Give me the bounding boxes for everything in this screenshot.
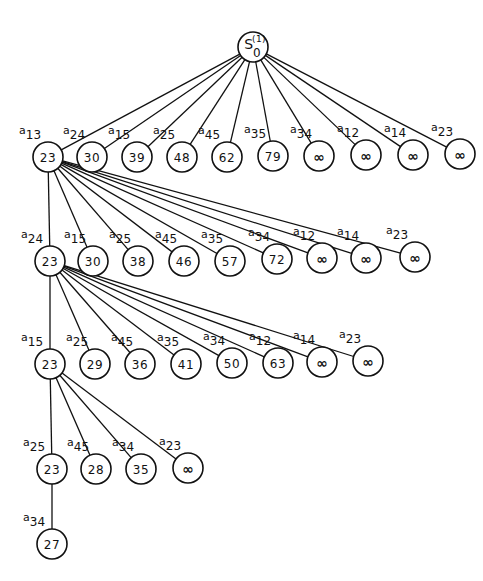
- tree-node: ∞: [398, 140, 428, 170]
- tree-node: 38: [123, 246, 153, 276]
- infinity-value: ∞: [316, 355, 328, 371]
- edge-label: a12: [249, 330, 271, 348]
- node-value: 23: [42, 358, 58, 372]
- tree-edge: [61, 162, 308, 253]
- node-value: 57: [222, 255, 238, 269]
- root-node: S (1) 0: [238, 32, 268, 62]
- tree-node: ∞: [445, 139, 475, 169]
- edge-label: a45: [155, 228, 177, 246]
- node-value: 50: [224, 357, 240, 371]
- tree-node: 29: [80, 349, 110, 379]
- infinity-value: ∞: [407, 148, 419, 164]
- tree-node: ∞: [351, 140, 381, 170]
- node-value: 48: [174, 151, 190, 165]
- tree-node: ∞: [173, 453, 203, 483]
- edge-label: a45: [67, 436, 89, 454]
- node-value: 39: [129, 151, 145, 165]
- tree-node: 46: [169, 246, 199, 276]
- tree-node: 23: [33, 142, 63, 172]
- edge-label: a25: [109, 228, 131, 246]
- edge-label: a34: [23, 511, 45, 529]
- nodes-layer: S (1) 0 233039486279∞∞∞∞233038465772∞∞∞2…: [33, 32, 475, 559]
- node-value: 63: [270, 357, 286, 371]
- tree-node: 63: [263, 348, 293, 378]
- tree-node: ∞: [304, 141, 334, 171]
- node-value: 62: [219, 151, 235, 165]
- node-value: 41: [178, 358, 194, 372]
- tree-node: 23: [35, 246, 65, 276]
- edge-label: a15: [64, 228, 86, 246]
- node-value: 30: [85, 255, 101, 269]
- tree-node: 72: [262, 244, 292, 274]
- infinity-value: ∞: [362, 354, 374, 370]
- tree-node: 79: [258, 141, 288, 171]
- tree-node: 41: [171, 349, 201, 379]
- node-value: 28: [88, 463, 104, 477]
- node-value: 23: [42, 255, 58, 269]
- tree-edge: [50, 378, 51, 454]
- edge-label: a13: [19, 124, 41, 142]
- infinity-value: ∞: [360, 251, 372, 267]
- tree-node: 28: [81, 454, 111, 484]
- tree-node: 62: [212, 142, 242, 172]
- edge-label: a45: [198, 124, 220, 142]
- edge-label: a35: [244, 123, 266, 141]
- node-value: 27: [44, 538, 60, 552]
- node-value: 23: [40, 151, 56, 165]
- edge-label: a25: [23, 436, 45, 454]
- node-value: 38: [130, 255, 146, 269]
- edge-label: a15: [108, 124, 130, 142]
- node-value: 46: [176, 255, 192, 269]
- tree-node: 57: [215, 246, 245, 276]
- edge-label: a35: [157, 331, 179, 349]
- tree-node: 36: [125, 349, 155, 379]
- edge-label: a14: [337, 225, 359, 243]
- node-value: 36: [132, 358, 148, 372]
- tree-node: 30: [78, 246, 108, 276]
- tree-edge: [63, 266, 308, 357]
- edge-label: a14: [293, 329, 315, 347]
- infinity-value: ∞: [313, 149, 325, 165]
- tree-node: ∞: [351, 243, 381, 273]
- edge-label: a45: [111, 331, 133, 349]
- tree-node: 23: [37, 454, 67, 484]
- edge-label: a12: [293, 225, 315, 243]
- tree-node: 35: [126, 454, 156, 484]
- edge-label: a23: [431, 121, 453, 139]
- tree-node: ∞: [307, 347, 337, 377]
- infinity-value: ∞: [409, 250, 421, 266]
- edge-label: a15: [21, 331, 43, 349]
- infinity-value: ∞: [454, 147, 466, 163]
- edge-label: a34: [248, 226, 270, 244]
- edge-label: a23: [159, 435, 181, 453]
- edge-label: a34: [203, 330, 225, 348]
- edge-label: a23: [339, 328, 361, 346]
- edge-label: a24: [63, 124, 85, 142]
- edge-label: a12: [337, 122, 359, 140]
- infinity-value: ∞: [182, 461, 194, 477]
- tree-node: 27: [37, 529, 67, 559]
- root-node-subscript: 0: [253, 46, 261, 60]
- edge-label: a24: [21, 228, 43, 246]
- search-tree-diagram: a13a24a15a25a45a35a34a12a14a23a24a15a25a…: [0, 0, 483, 581]
- infinity-value: ∞: [316, 251, 328, 267]
- tree-node: 48: [167, 142, 197, 172]
- infinity-value: ∞: [360, 148, 372, 164]
- node-value: 79: [265, 150, 281, 164]
- edge-label: a34: [112, 436, 134, 454]
- node-value: 23: [44, 463, 60, 477]
- tree-node: 30: [77, 142, 107, 172]
- tree-node: 50: [217, 348, 247, 378]
- tree-node: 23: [35, 349, 65, 379]
- tree-node: ∞: [307, 243, 337, 273]
- node-value: 35: [133, 463, 149, 477]
- edge-label: a23: [386, 224, 408, 242]
- tree-svg: a13a24a15a25a45a35a34a12a14a23a24a15a25a…: [0, 0, 483, 581]
- edge-label: a25: [66, 331, 88, 349]
- node-value: 72: [269, 253, 285, 267]
- tree-node: ∞: [400, 242, 430, 272]
- tree-node: ∞: [353, 346, 383, 376]
- root-node-superscript: (1): [252, 34, 266, 44]
- tree-node: 39: [122, 142, 152, 172]
- node-value: 30: [84, 151, 100, 165]
